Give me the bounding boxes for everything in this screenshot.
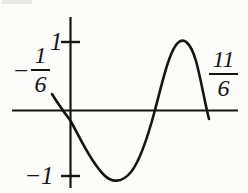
- y-axis-label-one: 1: [50, 29, 63, 54]
- x-intercept-label-right: 11 6: [209, 47, 238, 101]
- x-intercept-label-left: − 1 6: [14, 43, 50, 97]
- fraction-denominator: 6: [216, 76, 232, 101]
- fraction-denominator: 6: [33, 72, 49, 97]
- minus-sign-glyph: −: [14, 58, 28, 83]
- fraction-minus-one-sixth: − 1 6: [14, 43, 50, 97]
- math-figure-sine-curve: 1 −1 − 1 6 11 6: [0, 0, 248, 193]
- fraction-eleven-sixths: 11 6: [209, 47, 238, 101]
- fraction-numerator: 11: [210, 47, 236, 72]
- fraction: 1 6: [31, 43, 50, 97]
- fraction: 11 6: [209, 47, 238, 101]
- fraction-numerator: 1: [33, 43, 49, 68]
- y-axis-label-negative-one: −1: [26, 163, 54, 188]
- minus-sign-glyph: −: [26, 162, 41, 189]
- y-axis-label-negative-one-value: 1: [41, 162, 54, 189]
